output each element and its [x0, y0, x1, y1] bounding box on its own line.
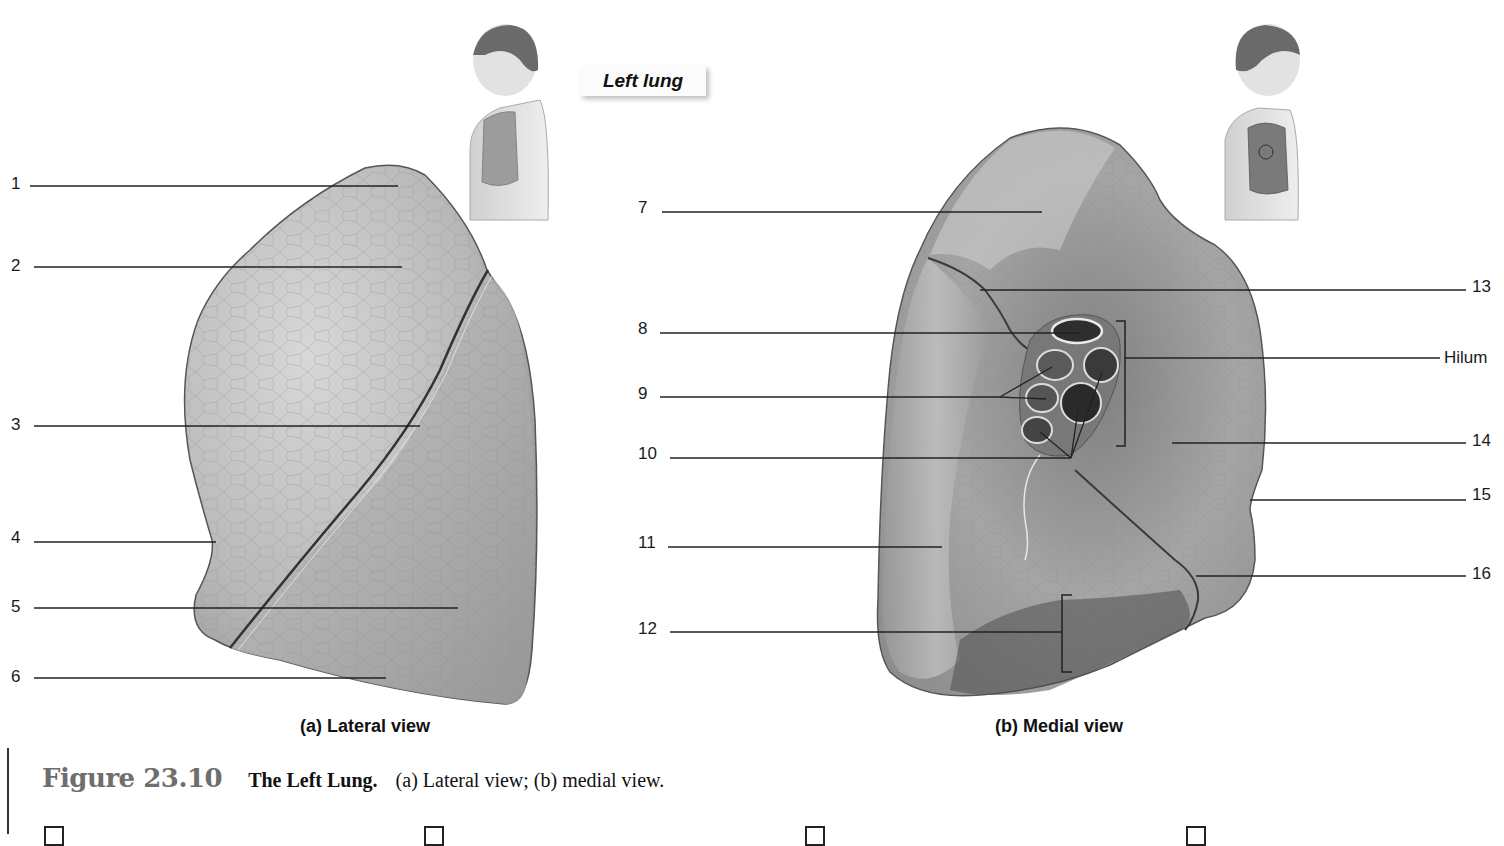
label-number-11: 11 — [638, 534, 656, 551]
answer-checkbox-1[interactable] — [44, 826, 64, 846]
caption-medial-view: (b) Medial view — [995, 716, 1123, 737]
person-medial-figure — [1225, 24, 1300, 220]
label-number-8: 8 — [638, 320, 647, 337]
diagram-title: Left lung — [603, 70, 683, 92]
lateral-lung — [185, 165, 537, 704]
answer-checkbox-3[interactable] — [805, 826, 825, 846]
label-hilum: Hilum — [1444, 349, 1487, 366]
label-number-7: 7 — [638, 199, 647, 216]
figure-name: The Left Lung. — [248, 769, 377, 792]
label-number-16: 16 — [1472, 565, 1491, 582]
label-number-5: 5 — [11, 598, 20, 615]
answer-checkbox-2[interactable] — [424, 826, 444, 846]
label-number-13: 13 — [1472, 278, 1491, 295]
label-number-9: 9 — [638, 385, 647, 402]
label-number-1: 1 — [11, 175, 20, 192]
label-number-12: 12 — [638, 620, 657, 637]
medial-lung — [878, 128, 1266, 696]
label-number-2: 2 — [11, 257, 20, 274]
answer-checkbox-4[interactable] — [1186, 826, 1206, 846]
label-number-15: 15 — [1472, 486, 1491, 503]
label-number-4: 4 — [11, 529, 20, 546]
person-lateral-figure — [470, 24, 548, 220]
caption-rule — [7, 748, 9, 834]
label-number-14: 14 — [1472, 432, 1491, 449]
caption-lateral-view: (a) Lateral view — [300, 716, 430, 737]
label-number-3: 3 — [11, 416, 20, 433]
diagram-title-box: Left lung — [580, 66, 706, 96]
figure-number: Figure 23.10 — [42, 763, 222, 793]
figure-caption: Figure 23.10 The Left Lung. (a) Lateral … — [42, 763, 664, 793]
figure-description: (a) Lateral view; (b) medial view. — [396, 769, 665, 792]
label-number-6: 6 — [11, 668, 20, 685]
label-number-10: 10 — [638, 445, 657, 462]
